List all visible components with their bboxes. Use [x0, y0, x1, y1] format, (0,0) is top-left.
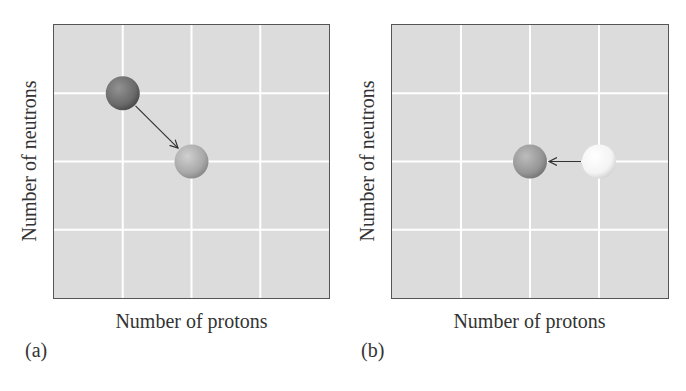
- panel-label-a: (a): [25, 339, 47, 362]
- y-axis-label-b: Number of neutrons: [356, 61, 379, 261]
- nucleus-daughter: [513, 145, 547, 179]
- nucleus-parent: [106, 76, 140, 110]
- chart-panel-a: [53, 24, 330, 299]
- x-axis-label-b: Number of protons: [391, 310, 668, 333]
- y-axis-label-a: Number of neutrons: [18, 61, 41, 261]
- plot-area-a: [54, 25, 329, 298]
- chart-panel-b: [391, 24, 669, 299]
- panel-label-b: (b): [361, 339, 384, 362]
- x-axis-label-a: Number of protons: [53, 310, 330, 333]
- plot-area-b: [392, 25, 668, 298]
- nucleus-daughter: [175, 145, 209, 179]
- nucleus-parent: [582, 145, 616, 179]
- decay-arrow: [136, 106, 178, 148]
